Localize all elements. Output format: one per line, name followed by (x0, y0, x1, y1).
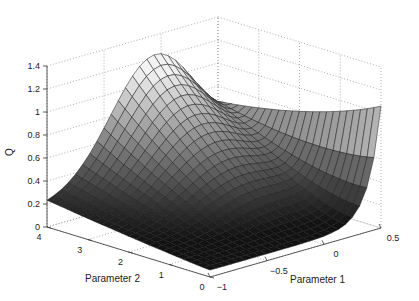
y-tick-label: 1 (159, 270, 164, 280)
y-tick-label: 2 (118, 257, 123, 267)
y-tick-label: 4 (36, 232, 41, 242)
x-tick-label: −1 (217, 282, 227, 292)
y-axis-label: Parameter 2 (85, 273, 140, 284)
x-tick-label: 0.5 (387, 233, 400, 243)
z-tick-label: 0.8 (27, 130, 40, 140)
y-tick-label: 0 (199, 282, 204, 292)
x-tick-label: 0 (333, 249, 338, 259)
surface-mesh (47, 54, 381, 270)
x-axis-label: Parameter 1 (290, 274, 345, 285)
z-tick-label: 0 (35, 222, 40, 232)
x-tick-label: −0.5 (270, 266, 288, 276)
z-tick-label: 1 (35, 107, 40, 117)
y-tick-label: 3 (77, 245, 82, 255)
z-tick-label: 1.2 (27, 84, 40, 94)
z-tick-label: 0.6 (27, 153, 40, 163)
z-tick-label: 1.4 (27, 61, 40, 71)
z-axis-label: Q (4, 148, 15, 156)
z-tick-label: 0.4 (27, 176, 40, 186)
z-tick-label: 0.2 (27, 199, 40, 209)
surface-plot: 00.20.40.60.811.21.401234−1−0.500.5 Q Pa… (0, 0, 419, 301)
